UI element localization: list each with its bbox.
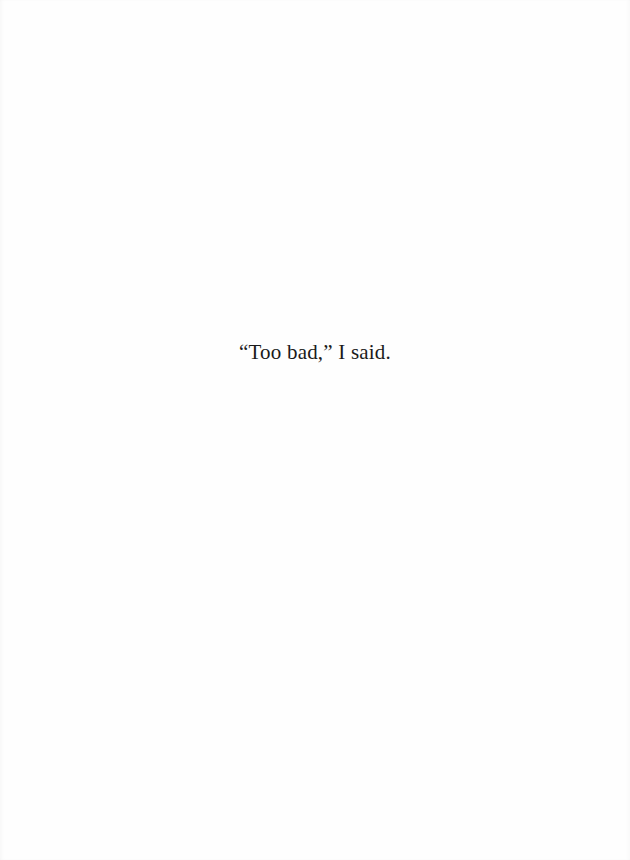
dialogue-line: “Too bad,” I said. bbox=[0, 338, 630, 366]
book-page: “Too bad,” I said. bbox=[0, 0, 630, 860]
